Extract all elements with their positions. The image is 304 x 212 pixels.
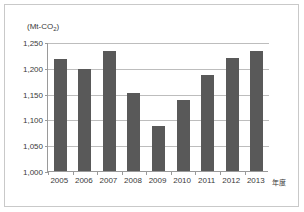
x-axis-tick-mark [171, 172, 172, 175]
x-axis-label-2010: 2010 [170, 176, 195, 185]
x-axis-tick-mark [48, 172, 49, 175]
bar-slot [245, 42, 270, 171]
y-axis-tick-label: 1,050 [23, 142, 43, 151]
bar-2010 [177, 100, 190, 171]
x-axis-label-2007: 2007 [96, 176, 121, 185]
y-axis-unit-label: (Mt-CO2) [27, 22, 59, 31]
x-axis-label-2005: 2005 [47, 176, 72, 185]
y-axis-tick-label: 1,250 [23, 39, 43, 48]
bar-2008 [127, 93, 140, 171]
x-axis-tick-mark [195, 172, 196, 175]
x-axis-label-2009: 2009 [145, 176, 170, 185]
x-axis-tick-mark [73, 172, 74, 175]
bar-2007 [103, 51, 116, 171]
y-axis-unit-subscript: 2 [53, 26, 56, 32]
y-axis-tick-label: 1,100 [23, 116, 43, 125]
bar-slot [48, 42, 73, 171]
x-axis-tick-labels: 200520062007200820092010201120122013 [47, 176, 268, 185]
x-axis-title: 年度 [272, 177, 286, 187]
x-axis-label-2008: 2008 [121, 176, 146, 185]
x-axis-tick-mark [122, 172, 123, 175]
y-axis-tick-label: 1,000 [23, 168, 43, 177]
bar-slot [220, 42, 245, 171]
bar-slot [195, 42, 220, 171]
bar-2006 [78, 69, 91, 171]
bar-2005 [54, 59, 67, 171]
bar-slot [97, 42, 122, 171]
chart-figure: (Mt-CO2) 1,0001,0501,1001,1501,2001,250 … [0, 0, 304, 212]
x-axis-tick-mark [146, 172, 147, 175]
x-axis-tick-mark [220, 172, 221, 175]
x-axis-label-2006: 2006 [72, 176, 97, 185]
bar-slot [146, 42, 171, 171]
x-axis-label-2013: 2013 [244, 176, 269, 185]
y-axis-tick-label: 1,150 [23, 90, 43, 99]
x-axis-label-2011: 2011 [194, 176, 219, 185]
y-axis-tick-label: 1,200 [23, 64, 43, 73]
bar-slot [122, 42, 147, 171]
x-axis-label-2012: 2012 [219, 176, 244, 185]
bar-series [48, 42, 269, 171]
bar-2009 [152, 126, 165, 171]
bar-slot [73, 42, 98, 171]
bar-2011 [201, 75, 214, 171]
plot-area: 1,0001,0501,1001,1501,2001,250 [47, 43, 268, 172]
x-axis-tick-mark [245, 172, 246, 175]
bar-2012 [226, 58, 239, 171]
x-axis-tick-mark [97, 172, 98, 175]
bar-2013 [250, 51, 263, 171]
bar-slot [171, 42, 196, 171]
y-axis-unit-text: (Mt-CO [27, 22, 53, 31]
